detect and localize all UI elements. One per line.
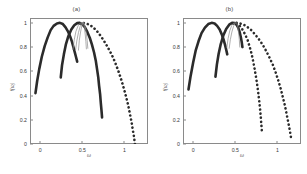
y-tick-mark [30,144,33,145]
panel-b-plot-area: 00.20.40.60.81 00.51 [183,18,301,144]
y-tick-mark [183,71,186,72]
x-tick-mark [235,141,236,144]
panel-b-curves [183,18,301,144]
x-tick-mark [82,141,83,144]
x-tick-mark [193,141,194,144]
x-tick-mark [277,141,278,144]
y-tick-label: 0 [24,141,27,147]
y-tick-label: 1 [177,20,180,26]
x-tick-mark [124,141,125,144]
series-thin-cluster-2 [229,23,235,48]
series-curve-2-solid-middle [61,23,102,118]
panel-a-x-axis-label: ω [30,152,148,158]
y-tick-mark [183,144,186,145]
y-tick-label: 0.6 [20,68,27,74]
y-tick-mark [183,119,186,120]
y-tick-label: 0.4 [20,93,27,99]
y-tick-label: 0.8 [173,44,180,50]
y-tick-mark [183,95,186,96]
series-curve-4-dotted-far-right [237,23,292,138]
y-tick-label: 0.6 [173,68,180,74]
y-tick-mark [30,119,33,120]
series-curve-3-dotted-right [80,23,135,144]
panel-a-y-axis-label: f(ω) [9,83,15,92]
panel-a-curves [30,18,148,144]
y-tick-label: 0.4 [173,93,180,99]
panel-b: (b) 00.20.40.60.81 00.51 f(ω) ω [153,0,306,174]
y-tick-label: 0.8 [20,44,27,50]
panel-a-plot-area: 00.20.40.60.81 00.51 [30,18,148,144]
y-tick-mark [30,71,33,72]
y-tick-label: 0.2 [173,117,180,123]
panel-b-y-axis-label: f(ω) [162,83,168,92]
figure-container: (a) 00.20.40.60.81 00.51 f(ω) ω (b) 00.2… [0,0,307,174]
series-thin-cluster-2 [76,23,84,51]
y-tick-label: 1 [24,20,27,26]
series-curve-1-solid-left [188,23,227,90]
y-tick-mark [30,47,33,48]
x-tick-mark [40,141,41,144]
series-thin-cluster-3 [78,23,83,50]
y-tick-mark [30,95,33,96]
panel-b-title: (b) [153,6,306,12]
y-tick-label: 0.2 [20,117,27,123]
panel-a-title: (a) [0,6,153,12]
y-tick-mark [30,22,33,23]
panel-b-x-axis-label: ω [183,152,301,158]
series-curve-3-dotted-right [233,23,262,133]
y-tick-mark [183,47,186,48]
y-tick-label: 0 [177,141,180,147]
panel-a: (a) 00.20.40.60.81 00.51 f(ω) ω [0,0,153,174]
y-tick-mark [183,22,186,23]
